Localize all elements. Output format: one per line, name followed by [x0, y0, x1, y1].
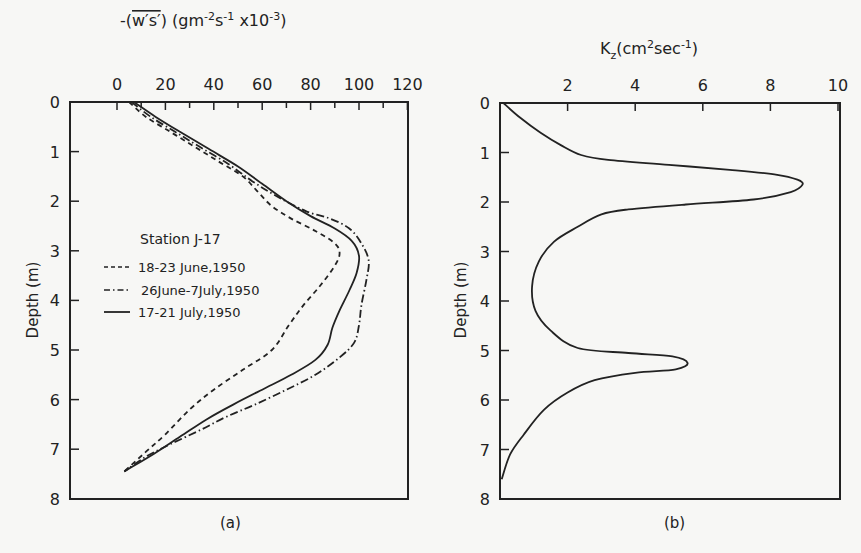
legend-label-2: 26June-7July,1950: [141, 283, 259, 298]
figure: -(w′s′) (gm-2s-1 x10-3) 020406080100120 …: [0, 0, 861, 553]
y-tick-label: 4: [50, 291, 60, 310]
panel-b-caption: (b): [664, 514, 685, 532]
panel-b-plot-frame: [500, 103, 840, 499]
panel-a-x-axis-title: -(w′s′) (gm-2s-1 x10-3): [120, 10, 286, 30]
y-tick-label: 7: [50, 440, 60, 459]
series-line-solid: [502, 103, 803, 479]
y-tick-label: 1: [50, 143, 60, 162]
y-tick-label: 0: [50, 93, 60, 112]
y-tick-label: 2: [480, 193, 490, 212]
y-tick-label: 2: [50, 192, 60, 211]
y-tick-label: 8: [480, 490, 490, 509]
panel-b-y-ticks: 012345678: [480, 94, 509, 509]
y-tick-label: 1: [480, 144, 490, 163]
legend-title: Station J-17: [140, 231, 221, 247]
x-tick-label: 60: [252, 75, 272, 94]
x-tick-label: 4: [630, 76, 640, 95]
x-tick-label: 6: [698, 76, 708, 95]
y-tick-label: 7: [480, 441, 490, 460]
panel-b-x-ticks: 246810: [563, 76, 849, 111]
panel-a-y-axis-title: Depth (m): [24, 262, 42, 339]
x-tick-label: 10: [828, 76, 848, 95]
panel-a-chart: -(w′s′) (gm-2s-1 x10-3) 020406080100120 …: [24, 10, 423, 532]
panel-b-series: [502, 103, 803, 479]
panel-b-y-axis-title: Depth (m): [452, 262, 470, 339]
y-tick-label: 3: [480, 243, 490, 262]
panel-b-x-axis-title: Kz(cm2sec-1): [600, 38, 698, 62]
y-tick-label: 6: [50, 391, 60, 410]
x-tick-label: 80: [300, 75, 320, 94]
y-tick-label: 4: [480, 292, 490, 311]
y-tick-label: 3: [50, 242, 60, 261]
x-tick-label: 20: [155, 75, 175, 94]
x-tick-label: 40: [204, 75, 224, 94]
legend-label-3: 17-21 July,1950: [138, 305, 241, 320]
x-tick-label: 120: [392, 75, 423, 94]
x-tick-label: 2: [563, 76, 573, 95]
y-tick-label: 0: [480, 94, 490, 113]
x-tick-label: 0: [112, 75, 122, 94]
panel-a-x-ticks: 020406080100120: [112, 75, 423, 110]
legend-label-1: 18-23 June,1950: [138, 260, 245, 275]
panel-b-chart: Kz(cm2sec-1) 246810 012345678 Depth (m) …: [452, 38, 848, 532]
y-tick-label: 5: [50, 341, 60, 360]
panel-a-plot-frame: [70, 102, 408, 499]
x-tick-label: 100: [344, 75, 375, 94]
panel-a-legend: Station J-17 18-23 June,1950 26June-7Jul…: [104, 231, 259, 320]
y-tick-label: 8: [50, 490, 60, 509]
panel-a-caption: (a): [220, 514, 241, 532]
panel-a-y-ticks: 012345678: [50, 93, 79, 509]
y-tick-label: 5: [480, 342, 490, 361]
y-tick-label: 6: [480, 391, 490, 410]
x-tick-label: 8: [765, 76, 775, 95]
